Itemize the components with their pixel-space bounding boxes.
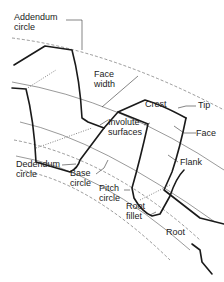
- label-base-line1: Base: [70, 168, 91, 178]
- label-root-fillet-line2: fillet: [126, 211, 143, 221]
- tooth-left-outline: [14, 46, 104, 128]
- label-face: Face: [196, 128, 216, 138]
- label-pitch-line2: circle: [99, 193, 120, 203]
- label-root: Root: [166, 227, 186, 237]
- label-addendum-line1: Addendum: [14, 12, 58, 22]
- leader-addendum: [66, 20, 82, 50]
- label-dedendum-line1: Dedendum: [16, 159, 60, 169]
- label-base-line2: circle: [70, 178, 91, 188]
- label-face-width-line2: width: [93, 79, 115, 89]
- label-dedendum-line2: circle: [16, 169, 37, 179]
- tooth-left-dotted: [26, 70, 56, 89]
- leader-base: [96, 160, 108, 174]
- leader-face: [174, 126, 196, 133]
- label-involute-line1: Involute: [108, 117, 140, 127]
- tooth-right-outline: [192, 244, 212, 274]
- label-face-width-line1: Face: [94, 69, 114, 79]
- label-flank: Flank: [180, 157, 203, 167]
- label-addendum-line2: circle: [14, 22, 35, 32]
- dedendum-circle-arc: [20, 170, 170, 260]
- addendum-circle-arc: [12, 38, 224, 110]
- label-tip: Tip: [198, 100, 210, 110]
- label-crest: Crest: [145, 99, 167, 109]
- gear-tooth-diagram: Addendum circle Face width Crest Tip Inv…: [0, 0, 224, 282]
- tooth-left-dotted-2: [36, 128, 92, 148]
- label-root-fillet-line1: Root: [126, 201, 146, 211]
- base-circle-arc: [16, 156, 190, 250]
- leader-tip: [178, 106, 196, 108]
- leader-dedendum: [62, 164, 76, 165]
- label-pitch-line1: Pitch: [99, 183, 119, 193]
- label-involute-line2: surfaces: [108, 127, 143, 137]
